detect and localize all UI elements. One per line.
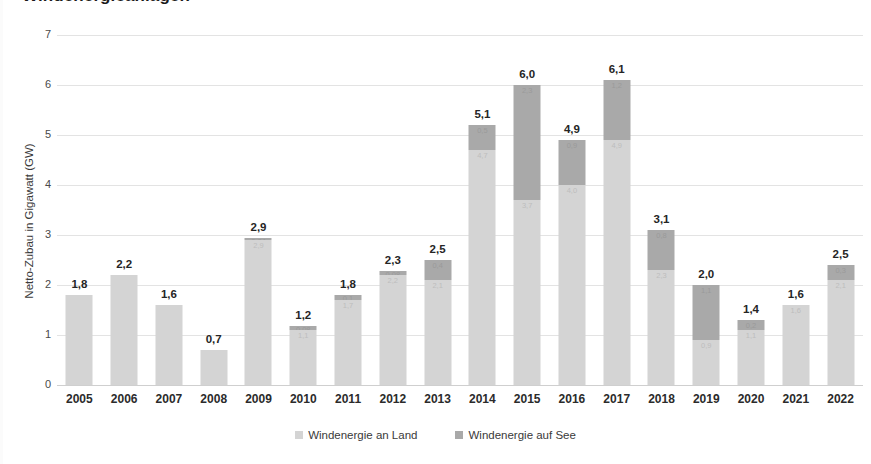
bar-stack[interactable]: 0,42,1	[424, 260, 451, 385]
bar-group[interactable]: 0,082,22,3	[370, 35, 415, 385]
bar-group[interactable]: 2,2	[102, 35, 147, 385]
x-axis-tick-label: 2014	[469, 392, 496, 406]
bar-segment-value-offshore: 0,9	[558, 141, 585, 150]
bar-segment-value-onshore: 4,9	[603, 141, 630, 150]
bar-group[interactable]: 1,10,92,0	[684, 35, 729, 385]
chart-page: Windenergieanlagen Netto-Zubau in Gigawa…	[0, 0, 871, 464]
bar-segment-value-offshore: 1,2	[603, 81, 630, 90]
bar-stack[interactable]	[200, 350, 227, 385]
bar-segment-value-onshore: 3,7	[514, 201, 541, 210]
bar-group[interactable]: 0,081,11,2	[281, 35, 326, 385]
bar-group[interactable]: 0,82,33,1	[639, 35, 684, 385]
bar-group[interactable]: 0,54,75,1	[460, 35, 505, 385]
x-axis-tick-label: 2013	[424, 392, 451, 406]
bar-segment-onshore[interactable]	[66, 295, 93, 385]
bar-group[interactable]: 0,042,92,9	[236, 35, 281, 385]
bar-group[interactable]: 2,33,76,0	[505, 35, 550, 385]
bar-stack[interactable]	[155, 305, 182, 385]
bar-segment-onshore[interactable]: 2,1	[827, 280, 854, 385]
bar-total-label: 6,1	[609, 63, 625, 75]
legend-label: Windenergie an Land	[308, 429, 417, 441]
chart-title: Windenergieanlagen	[22, 0, 190, 6]
x-axis-tick-label: 2022	[827, 392, 854, 406]
bar-stack[interactable]	[66, 295, 93, 385]
bar-segment-offshore[interactable]: 0,8	[648, 230, 675, 270]
bar-stack[interactable]: 0,54,7	[469, 125, 496, 385]
bar-group[interactable]: 0,7	[191, 35, 236, 385]
bar-segment-onshore[interactable]: 2,9	[245, 240, 272, 385]
bar-segment-onshore[interactable]: 2,2	[379, 275, 406, 385]
bar-segment-onshore[interactable]	[200, 350, 227, 385]
bar-group[interactable]: 1,61,6	[773, 35, 818, 385]
y-axis-tick-label: 3	[35, 228, 51, 240]
bar-stack[interactable]: 0,94,0	[558, 140, 585, 385]
bar-stack[interactable]: 1,24,9	[603, 80, 630, 385]
bar-segment-offshore[interactable]: 0,3	[827, 265, 854, 280]
bar-segment-offshore[interactable]: 0,5	[469, 125, 496, 150]
bar-segment-value-offshore: 0,3	[827, 266, 854, 275]
bar-stack[interactable]: 0,21,1	[738, 320, 765, 385]
bar-stack[interactable]: 1,6	[782, 305, 809, 385]
bar-segment-value-offshore: 0,2	[738, 321, 765, 330]
x-axis-tick-label: 2011	[335, 392, 361, 406]
bar-group[interactable]: 0,32,12,5	[818, 35, 863, 385]
bar-segment-offshore[interactable]: 1,2	[603, 80, 630, 140]
x-axis-tick-label: 2010	[290, 392, 317, 406]
bar-segment-offshore[interactable]: 0,9	[558, 140, 585, 185]
bar-series-container: 1,82,21,60,70,042,92,90,081,11,20,11,71,…	[57, 35, 863, 385]
legend-item[interactable]: Windenergie an Land	[295, 429, 417, 441]
bar-stack[interactable]: 0,081,1	[290, 326, 317, 385]
bar-segment-onshore[interactable]: 4,9	[603, 140, 630, 385]
bar-segment-onshore[interactable]	[155, 305, 182, 385]
x-axis-tick-label: 2007	[156, 392, 183, 406]
bar-group[interactable]: 1,24,96,1	[594, 35, 639, 385]
bar-group[interactable]: 0,94,04,9	[550, 35, 595, 385]
bar-stack[interactable]: 1,10,9	[693, 285, 720, 385]
bar-segment-onshore[interactable]: 1,6	[782, 305, 809, 385]
bar-stack[interactable]: 2,33,7	[514, 85, 541, 385]
bar-segment-value-onshore: 1,1	[290, 331, 317, 340]
bar-segment-onshore[interactable]: 2,1	[424, 280, 451, 385]
x-axis-line	[57, 385, 863, 386]
bar-segment-onshore[interactable]: 1,1	[738, 330, 765, 385]
bar-segment-onshore[interactable]	[111, 275, 138, 385]
bar-stack[interactable]: 0,32,1	[827, 265, 854, 385]
bar-stack[interactable]: 0,11,7	[335, 295, 362, 385]
bar-group[interactable]: 0,21,11,4	[729, 35, 774, 385]
bar-group[interactable]: 1,6	[147, 35, 192, 385]
bar-segment-onshore[interactable]: 1,7	[335, 300, 362, 385]
y-axis-tick-label: 6	[35, 78, 51, 90]
bar-segment-offshore[interactable]: 2,3	[514, 85, 541, 200]
bar-segment-onshore[interactable]: 4,0	[558, 185, 585, 385]
bar-segment-onshore[interactable]: 1,1	[290, 330, 317, 385]
x-axis-tick-label: 2008	[200, 392, 227, 406]
bar-segment-value-onshore: 4,0	[558, 186, 585, 195]
bar-group[interactable]: 1,8	[57, 35, 102, 385]
bar-stack[interactable]	[111, 275, 138, 385]
x-axis-tick-label: 2006	[111, 392, 138, 406]
bar-segment-value-onshore: 2,1	[424, 281, 451, 290]
legend-item[interactable]: Windenergie auf See	[455, 429, 575, 441]
bar-group[interactable]: 0,11,71,8	[326, 35, 371, 385]
bar-segment-onshore[interactable]: 3,7	[514, 200, 541, 385]
bar-total-label: 0,7	[206, 333, 222, 345]
bar-segment-offshore[interactable]: 0,4	[424, 260, 451, 280]
bar-stack[interactable]: 0,042,9	[245, 238, 272, 385]
bar-group[interactable]: 0,42,12,5	[415, 35, 460, 385]
bar-stack[interactable]: 0,82,3	[648, 230, 675, 385]
y-axis-title: Netto-Zubau in Gigawatt (GW)	[23, 91, 35, 351]
bar-segment-offshore[interactable]: 1,1	[693, 285, 720, 340]
bar-segment-onshore[interactable]: 0,9	[693, 340, 720, 385]
bar-segment-offshore[interactable]: 0,2	[738, 320, 765, 330]
y-axis-tick-label: 7	[35, 28, 51, 40]
bar-segment-value-offshore: 0,5	[469, 126, 496, 135]
x-axis-tick-label: 2009	[245, 392, 272, 406]
bar-total-label: 1,6	[161, 288, 177, 300]
bar-total-label: 4,9	[564, 123, 580, 135]
bar-stack[interactable]: 0,082,2	[379, 271, 406, 385]
bar-segment-value-onshore: 2,3	[648, 271, 675, 280]
bar-total-label: 1,4	[743, 303, 759, 315]
bar-segment-onshore[interactable]: 2,3	[648, 270, 675, 385]
bar-segment-onshore[interactable]: 4,7	[469, 150, 496, 385]
x-axis-tick-label: 2017	[603, 392, 630, 406]
